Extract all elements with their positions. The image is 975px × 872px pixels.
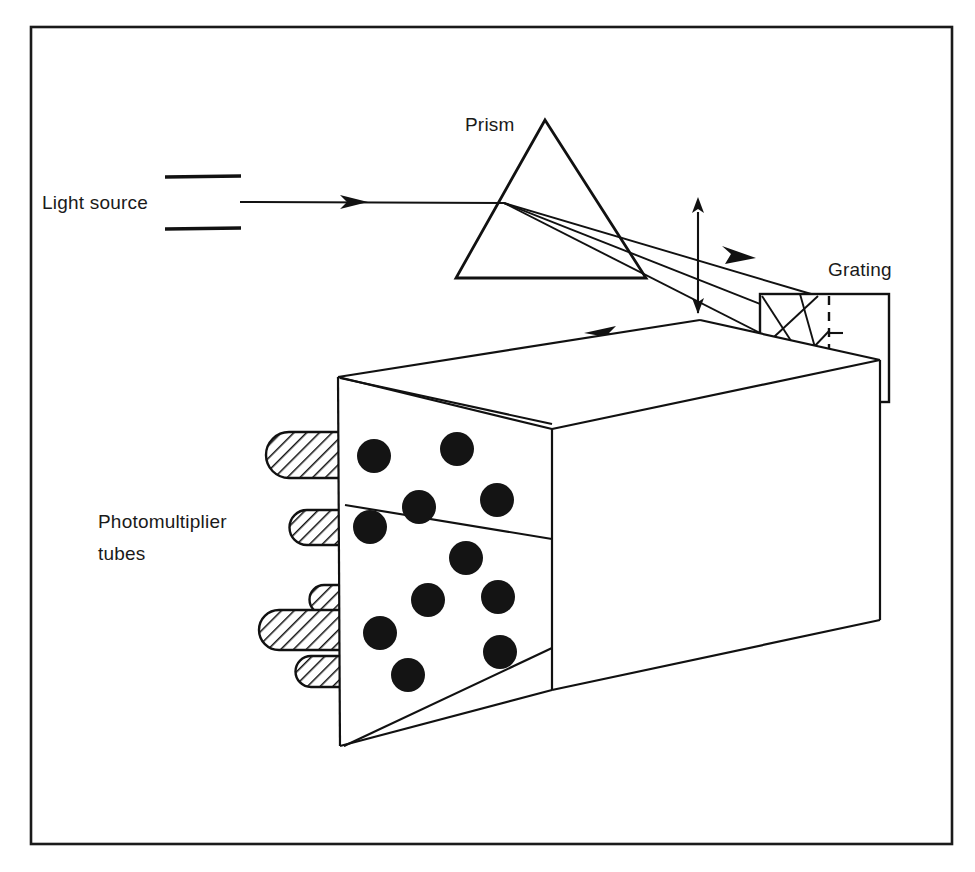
incident-beam xyxy=(240,195,504,209)
housing-front-face xyxy=(338,377,552,746)
slit-bar-top xyxy=(165,176,241,177)
pmt-dot xyxy=(440,432,474,466)
pmt-dot xyxy=(480,483,514,517)
pmt-tube-1 xyxy=(266,432,342,478)
incident-beam-line xyxy=(240,202,504,203)
grating-label: Grating xyxy=(828,259,892,280)
prism-shape xyxy=(456,120,646,278)
pmt-dot xyxy=(449,541,483,575)
pmt-tube-4 xyxy=(259,610,344,650)
pmt-dot xyxy=(481,580,515,614)
photomultiplier-label-line-1: Photomultiplier xyxy=(98,511,227,532)
pmt-dot xyxy=(357,439,391,473)
pmt-tube-5 xyxy=(296,656,346,687)
light-source-slits xyxy=(165,176,241,229)
slit-bar-bottom xyxy=(165,228,241,229)
prism-label: Prism xyxy=(465,114,515,135)
prism-triangle xyxy=(456,120,646,278)
pmt-dot xyxy=(411,583,445,617)
pmt-dot xyxy=(391,658,425,692)
pmt-dot xyxy=(402,490,436,524)
diagram-canvas: Light source Prism Grating Photomultipli… xyxy=(0,0,975,872)
spectrometer-figure: Light source Prism Grating Photomultipli… xyxy=(0,0,975,872)
photomultiplier-tube-group xyxy=(259,432,345,687)
dispersed-ray-arrow-icon xyxy=(722,246,756,264)
light-source-label: Light source xyxy=(42,192,148,213)
pmt-dot xyxy=(363,616,397,650)
pmt-tube-2 xyxy=(290,510,343,545)
pmt-dot xyxy=(483,635,517,669)
pmt-dot xyxy=(353,510,387,544)
photomultiplier-label-line-2: tubes xyxy=(98,543,145,564)
